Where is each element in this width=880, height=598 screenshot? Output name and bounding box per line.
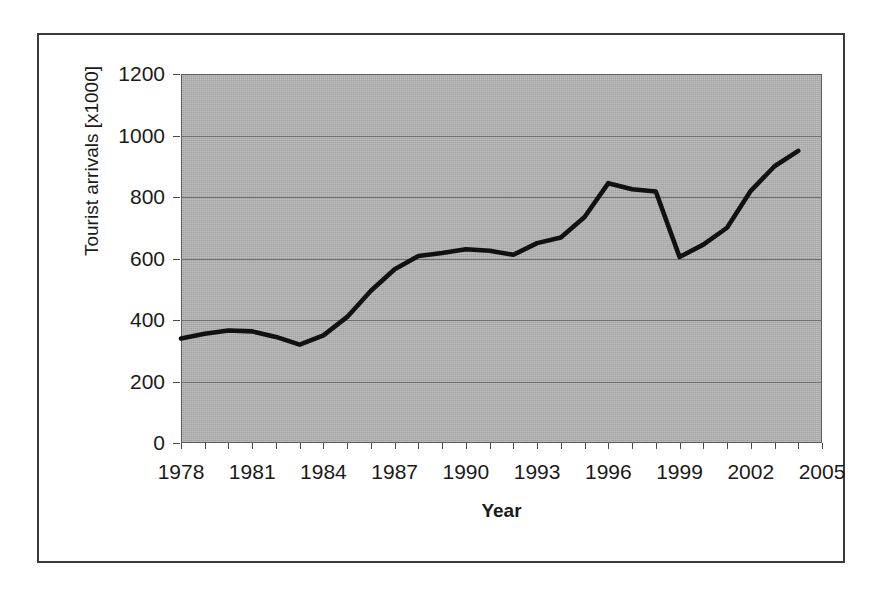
x-tick-mark-2000 [703,443,704,449]
x-tick-label-1990: 1990 [426,461,506,482]
x-tick-mark-1999 [680,443,681,449]
x-tick-label-1984: 1984 [283,461,363,482]
x-tick-label-1993: 1993 [497,461,577,482]
x-tick-mark-1978 [181,443,182,449]
x-tick-mark-1987 [395,443,396,449]
series-line-tourist-arrivals [181,151,798,345]
y-tick-mark-1200 [173,74,180,75]
x-tick-mark-1995 [585,443,586,449]
x-tick-label-1981: 1981 [212,461,292,482]
x-tick-mark-1990 [466,443,467,449]
y-tick-mark-1000 [173,136,180,137]
x-tick-mark-1991 [490,443,491,449]
plot-canvas [181,74,822,443]
x-tick-mark-1989 [442,443,443,449]
y-tick-label-600: 600 [93,248,165,269]
x-tick-mark-1992 [513,443,514,449]
y-tick-mark-600 [173,259,180,260]
chart-figure: Tourist arrivals [x1000] 020040060080010… [0,0,880,598]
x-tick-mark-2001 [727,443,728,449]
gridlines [181,136,822,382]
x-tick-mark-2004 [798,443,799,449]
x-tick-mark-1986 [371,443,372,449]
y-tick-label-1000: 1000 [93,125,165,146]
x-tick-mark-1980 [228,443,229,449]
x-tick-label-2005: 2005 [782,461,862,482]
x-axis-title: Year [181,500,822,522]
x-tick-mark-2005 [822,443,823,449]
x-tick-mark-1983 [300,443,301,449]
x-tick-label-2002: 2002 [711,461,791,482]
x-tick-mark-1988 [418,443,419,449]
x-tick-mark-1993 [537,443,538,449]
y-tick-mark-0 [173,443,180,444]
x-tick-mark-1982 [276,443,277,449]
y-tick-mark-400 [173,320,180,321]
x-tick-mark-1998 [656,443,657,449]
x-tick-label-1987: 1987 [355,461,435,482]
y-tick-label-1200: 1200 [93,63,165,84]
y-tick-mark-200 [173,382,180,383]
y-tick-label-400: 400 [93,309,165,330]
x-tick-mark-1985 [347,443,348,449]
x-tick-mark-1996 [608,443,609,449]
x-tick-label-1978: 1978 [141,461,221,482]
x-tick-label-1999: 1999 [640,461,720,482]
y-tick-mark-800 [173,197,180,198]
x-tick-label-1996: 1996 [568,461,648,482]
x-tick-mark-1984 [323,443,324,449]
y-tick-label-800: 800 [93,186,165,207]
x-tick-mark-1994 [561,443,562,449]
x-tick-mark-1981 [252,443,253,449]
x-tick-mark-2002 [751,443,752,449]
x-tick-mark-1979 [205,443,206,449]
x-tick-mark-1997 [632,443,633,449]
x-tick-mark-2003 [775,443,776,449]
y-tick-label-200: 200 [93,371,165,392]
y-tick-label-0: 0 [93,432,165,453]
